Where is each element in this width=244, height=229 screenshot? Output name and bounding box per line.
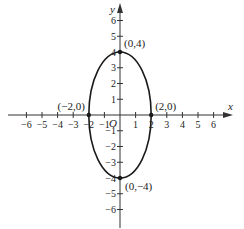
point-marker <box>118 50 122 54</box>
x-tick-label: −4 <box>52 119 63 130</box>
x-tick-label: −6 <box>21 119 32 130</box>
x-tick-label: 3 <box>164 119 169 130</box>
ellipse-chart: −6−5−4−3−2−1123456−6−5−4−3−2−1123456 (0,… <box>0 0 244 229</box>
y-tick-label: −6 <box>105 204 116 215</box>
x-tick-label: 5 <box>196 119 201 130</box>
y-tick-label: 6 <box>111 15 116 26</box>
y-tick-label: 3 <box>111 62 116 73</box>
point-marker <box>118 176 122 180</box>
y-tick-label: −5 <box>105 188 116 199</box>
y-tick-label: 5 <box>111 31 116 42</box>
x-tick-label: 1 <box>133 119 138 130</box>
x-tick-label: 4 <box>180 119 185 130</box>
point-label: (0,−4) <box>125 180 153 193</box>
point-marker <box>87 113 91 117</box>
y-tick-label: 4 <box>111 47 116 58</box>
y-axis-arrow-icon <box>117 3 123 13</box>
x-axis-label: x <box>227 100 233 112</box>
point-label: (−2,0) <box>58 100 86 113</box>
point-label: (2,0) <box>155 100 176 113</box>
origin-label: O <box>109 117 117 129</box>
y-tick-label: −3 <box>105 157 116 168</box>
y-tick-label: −2 <box>105 141 116 152</box>
y-axis-label: y <box>109 3 115 15</box>
x-tick-label: 2 <box>149 119 154 130</box>
x-tick-label: −2 <box>83 119 94 130</box>
y-tick-label: 2 <box>111 78 116 89</box>
point-label: (0,4) <box>124 37 145 50</box>
x-axis-arrow-icon <box>223 112 233 118</box>
y-tick-label: −4 <box>105 173 116 184</box>
x-tick-label: −5 <box>37 119 48 130</box>
y-tick-label: 1 <box>111 94 116 105</box>
point-marker <box>149 113 153 117</box>
x-tick-label: 6 <box>211 119 216 130</box>
x-tick-label: −3 <box>68 119 79 130</box>
